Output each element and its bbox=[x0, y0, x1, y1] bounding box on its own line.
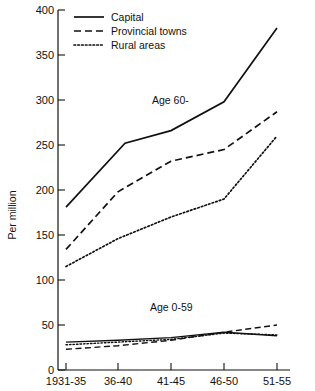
y-tick-label-100: 100 bbox=[36, 274, 54, 286]
annotation-age-60-plus: Age 60- bbox=[152, 94, 189, 106]
legend-label-rural-areas: Rural areas bbox=[111, 39, 165, 51]
x-tick-marks bbox=[66, 363, 277, 370]
y-tick-marks bbox=[58, 10, 65, 370]
x-tick-label-41-45: 41-45 bbox=[157, 375, 185, 387]
legend-label-capital: Capital bbox=[111, 11, 144, 23]
y-tick-label-400: 400 bbox=[36, 4, 54, 16]
legend: Capital Provincial towns Rural areas bbox=[74, 11, 187, 51]
series-line-capital-age60 bbox=[66, 28, 277, 207]
y-tick-label-300: 300 bbox=[36, 94, 54, 106]
x-tick-label-51-55: 51-55 bbox=[263, 375, 291, 387]
series-line-rural-areas-age0-59 bbox=[66, 333, 277, 345]
x-tick-label-46-50: 46-50 bbox=[210, 375, 238, 387]
annotation-age-0-59: Age 0-59 bbox=[150, 301, 193, 313]
y-tick-label-200: 200 bbox=[36, 184, 54, 196]
chart-container: 400 350 300 250 200 150 100 50 0 Per mil… bbox=[0, 0, 315, 391]
y-tick-label-150: 150 bbox=[36, 229, 54, 241]
series-line-provincial-towns-age60 bbox=[66, 112, 277, 250]
legend-label-provincial-towns: Provincial towns bbox=[111, 25, 187, 37]
series-group-age-60-plus bbox=[66, 28, 277, 267]
x-tick-label-36-40: 36-40 bbox=[104, 375, 132, 387]
line-chart: 400 350 300 250 200 150 100 50 0 Per mil… bbox=[0, 0, 315, 391]
y-tick-label-250: 250 bbox=[36, 139, 54, 151]
x-tick-label-1931-35: 1931-35 bbox=[46, 375, 86, 387]
series-line-rural-areas-age60 bbox=[66, 136, 277, 267]
y-tick-label-50: 50 bbox=[42, 319, 54, 331]
y-tick-label-350: 350 bbox=[36, 49, 54, 61]
y-axis-title: Per million bbox=[6, 190, 18, 239]
series-group-age-0-59 bbox=[66, 325, 277, 349]
